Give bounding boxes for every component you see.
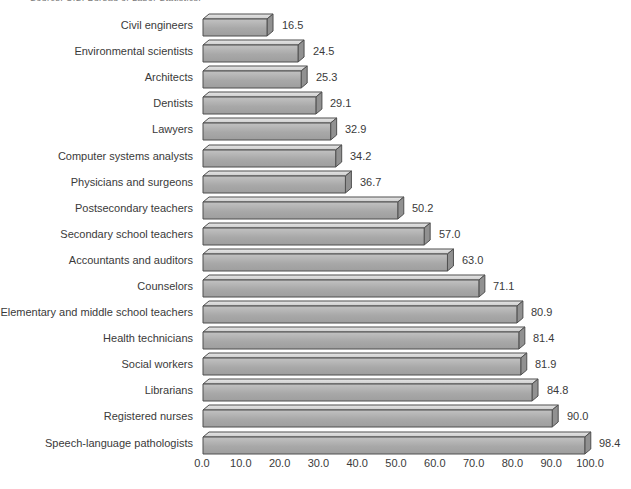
bar bbox=[202, 326, 526, 350]
category-label: Postsecondary teachers bbox=[0, 202, 198, 214]
category-label: Accountants and auditors bbox=[0, 254, 198, 266]
axis-tick-label: 80.0 bbox=[502, 457, 523, 469]
axis-tick-label: 50.0 bbox=[385, 457, 406, 469]
bar-row: Environmental scientists24.5 bbox=[0, 38, 631, 64]
value-label: 57.0 bbox=[439, 228, 460, 240]
axis-tick-label: 70.0 bbox=[463, 457, 484, 469]
bar-row: Physicians and surgeons36.7 bbox=[0, 169, 631, 195]
axis-tick-label: 100.0 bbox=[576, 457, 604, 469]
value-label: 24.5 bbox=[313, 45, 334, 57]
category-label: Speech-language pathologists bbox=[0, 437, 198, 449]
value-label: 29.1 bbox=[330, 97, 351, 109]
category-label: Elementary and middle school teachers bbox=[0, 306, 198, 318]
bar bbox=[202, 404, 560, 428]
x-axis: 0.010.020.030.040.050.060.070.080.090.01… bbox=[0, 457, 631, 473]
bar-row: Elementary and middle school teachers80.… bbox=[0, 299, 631, 325]
bar-row: Social workers81.9 bbox=[0, 351, 631, 377]
category-label: Lawyers bbox=[0, 123, 198, 135]
bar-row: Counselors71.1 bbox=[0, 273, 631, 299]
axis-tick-label: 0.0 bbox=[194, 457, 209, 469]
bar-chart: Source: U.S. Bureau of Labor Statistics.… bbox=[0, 0, 631, 489]
bar-row: Health technicians81.4 bbox=[0, 325, 631, 351]
category-label: Librarians bbox=[0, 384, 198, 396]
bar-row: Dentists29.1 bbox=[0, 90, 631, 116]
value-label: 81.9 bbox=[535, 358, 556, 370]
bar bbox=[202, 378, 540, 402]
value-label: 34.2 bbox=[350, 150, 371, 162]
axis-tick-label: 30.0 bbox=[308, 457, 329, 469]
bar-row: Postsecondary teachers50.2 bbox=[0, 195, 631, 221]
bar-row: Lawyers32.9 bbox=[0, 116, 631, 142]
bar bbox=[202, 300, 524, 324]
bar bbox=[202, 196, 405, 220]
category-label: Health technicians bbox=[0, 332, 198, 344]
bar bbox=[202, 65, 309, 89]
category-label: Environmental scientists bbox=[0, 45, 198, 57]
value-label: 50.2 bbox=[412, 202, 433, 214]
bar-row: Architects25.3 bbox=[0, 64, 631, 90]
bar-row: Speech-language pathologists98.4 bbox=[0, 430, 631, 456]
value-label: 25.3 bbox=[316, 71, 337, 83]
bar bbox=[202, 117, 338, 141]
bar bbox=[202, 248, 455, 272]
category-label: Architects bbox=[0, 71, 198, 83]
bar-row: Computer systems analysts34.2 bbox=[0, 142, 631, 168]
bar bbox=[202, 13, 275, 37]
category-label: Counselors bbox=[0, 280, 198, 292]
bar bbox=[202, 222, 432, 246]
category-label: Secondary school teachers bbox=[0, 228, 198, 240]
bar-row: Accountants and auditors63.0 bbox=[0, 247, 631, 273]
value-label: 71.1 bbox=[493, 280, 514, 292]
axis-tick-label: 20.0 bbox=[269, 457, 290, 469]
bar bbox=[202, 170, 353, 194]
axis-tick-label: 60.0 bbox=[424, 457, 445, 469]
value-label: 98.4 bbox=[599, 437, 620, 449]
category-label: Civil engineers bbox=[0, 19, 198, 31]
category-label: Computer systems analysts bbox=[0, 150, 198, 162]
axis-tick-label: 90.0 bbox=[540, 457, 561, 469]
bar-row: Librarians84.8 bbox=[0, 377, 631, 403]
value-label: 80.9 bbox=[531, 306, 552, 318]
bar-row: Registered nurses90.0 bbox=[0, 403, 631, 429]
bar-row: Secondary school teachers57.0 bbox=[0, 221, 631, 247]
value-label: 36.7 bbox=[360, 176, 381, 188]
value-label: 90.0 bbox=[567, 410, 588, 422]
value-label: 63.0 bbox=[462, 254, 483, 266]
bar bbox=[202, 431, 592, 455]
value-label: 32.9 bbox=[345, 123, 366, 135]
category-label: Physicians and surgeons bbox=[0, 176, 198, 188]
value-label: 16.5 bbox=[282, 19, 303, 31]
bar-row: Civil engineers16.5 bbox=[0, 12, 631, 38]
chart-rows: Civil engineers16.5Environmental scienti… bbox=[0, 12, 631, 456]
axis-tick-label: 40.0 bbox=[346, 457, 367, 469]
category-label: Dentists bbox=[0, 97, 198, 109]
source-note: Source: U.S. Bureau of Labor Statistics. bbox=[30, 0, 201, 3]
bar bbox=[202, 274, 486, 298]
bar bbox=[202, 91, 323, 115]
bar bbox=[202, 144, 343, 168]
bar bbox=[202, 352, 528, 376]
category-label: Social workers bbox=[0, 358, 198, 370]
value-label: 84.8 bbox=[547, 384, 568, 396]
category-label: Registered nurses bbox=[0, 410, 198, 422]
axis-tick-label: 10.0 bbox=[230, 457, 251, 469]
value-label: 81.4 bbox=[533, 332, 554, 344]
bar bbox=[202, 39, 306, 63]
